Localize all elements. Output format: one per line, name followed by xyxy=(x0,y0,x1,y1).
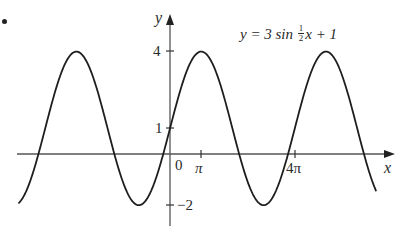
equation-fraction: 12 xyxy=(298,24,305,43)
equation-suffix: x + 1 xyxy=(305,26,337,42)
y-tick-label-1: 1 xyxy=(155,121,163,136)
x-tick-label-4pi: 4π xyxy=(286,161,301,176)
sine-graph xyxy=(0,0,397,227)
fraction-denominator: 2 xyxy=(298,34,305,43)
x-axis-arrow-icon xyxy=(384,150,395,158)
x-axis-label: x xyxy=(384,160,391,176)
y-axis-label: y xyxy=(155,10,162,26)
sine-curve xyxy=(19,52,376,206)
equation-prefix: y = 3 sin xyxy=(240,26,297,42)
equation-label: y = 3 sin 12x + 1 xyxy=(240,26,337,45)
y-tick-label-4: 4 xyxy=(153,44,161,59)
origin-label: 0 xyxy=(175,158,183,173)
x-tick-label-pi: π xyxy=(195,161,203,176)
y-tick-label-neg2: −2 xyxy=(177,198,193,213)
y-axis-arrow-icon xyxy=(166,14,174,25)
